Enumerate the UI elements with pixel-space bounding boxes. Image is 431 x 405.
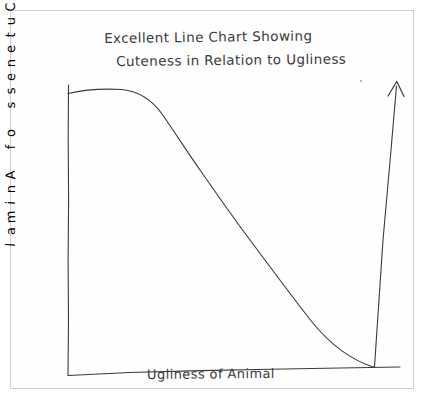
data-curve-cuteness (68, 86, 397, 367)
x-axis-label: Ugliness of Animal (147, 366, 275, 382)
y-axis-line (68, 85, 69, 375)
chart-page: Excellent Line Chart Showing Cuteness in… (0, 0, 431, 405)
chart-title-line-2: Cuteness in Relation to Ugliness (116, 51, 346, 69)
stray-ink-dot (360, 80, 362, 82)
chart-title-line-1: Excellent Line Chart Showing (104, 27, 312, 46)
y-axis-label-char: l (3, 234, 19, 257)
